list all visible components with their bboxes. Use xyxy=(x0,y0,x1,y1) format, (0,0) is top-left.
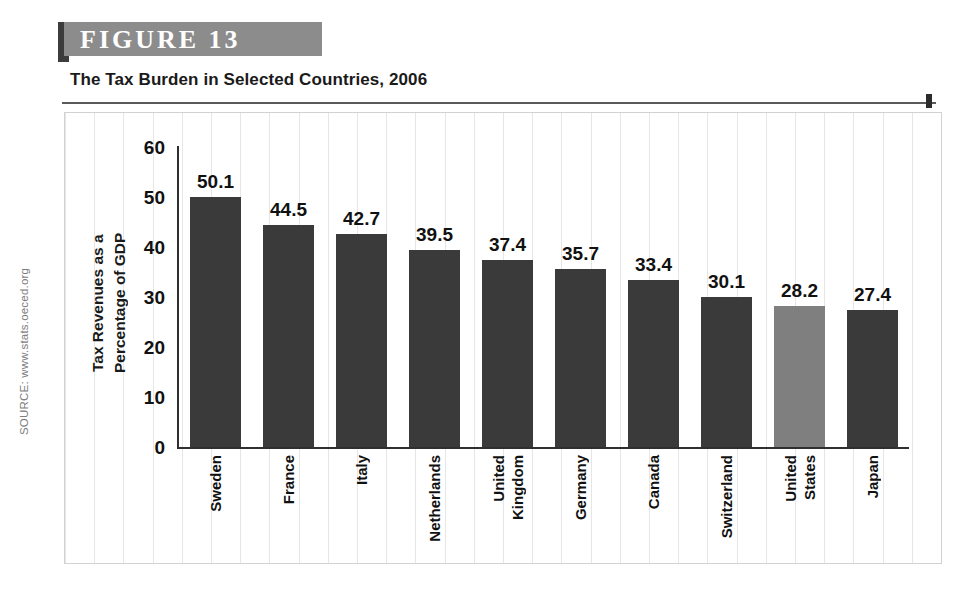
bar-slot: 28.2 xyxy=(763,147,836,447)
bar-sweden[interactable] xyxy=(190,197,241,448)
chart-panel: Tax Revenues as a Percentage of GDP 6050… xyxy=(64,112,942,564)
bar-slot: 33.4 xyxy=(617,147,690,447)
x-axis-label-line: Italy xyxy=(352,455,371,485)
bar-value-label: 35.7 xyxy=(544,244,617,263)
bar-slot: 42.7 xyxy=(325,147,398,447)
x-axis-label-line: Switzerland xyxy=(717,455,736,538)
y-tick-label: 40 xyxy=(144,238,165,257)
x-axis-label-line: Netherlands xyxy=(425,455,444,542)
bar-slot: 44.5 xyxy=(252,147,325,447)
figure-banner-row: FIGURE 13 xyxy=(58,22,936,56)
x-axis-label-line: Japan xyxy=(863,455,882,498)
x-axis-label-line: Sweden xyxy=(206,455,225,512)
x-label-slot: Netherlands xyxy=(398,455,471,561)
bar-value-label: 42.7 xyxy=(325,209,398,228)
bar-slot: 35.7 xyxy=(544,147,617,447)
y-tick-label: 30 xyxy=(144,288,165,307)
bar-united-states[interactable] xyxy=(774,306,825,447)
x-axis-label-line: Kingdom xyxy=(508,455,527,520)
x-axis-label-line: States xyxy=(800,455,819,500)
x-axis-label-japan: Japan xyxy=(836,455,909,561)
bar-netherlands[interactable] xyxy=(409,250,460,448)
x-axis-label-france: France xyxy=(252,455,325,561)
x-axis-line xyxy=(177,447,909,449)
figure-subtitle: The Tax Burden in Selected Countries, 20… xyxy=(70,70,427,90)
x-label-slot: UnitedKingdom xyxy=(471,455,544,561)
y-axis-title-line-1: Tax Revenues as a xyxy=(87,153,109,453)
subtitle-divider-end-tab xyxy=(926,94,932,108)
bar-value-label: 39.5 xyxy=(398,225,471,244)
bar-value-label: 33.4 xyxy=(617,255,690,274)
x-label-slot: Japan xyxy=(836,455,909,561)
x-axis-label-united-states: UnitedStates xyxy=(763,455,836,561)
x-axis-label-netherlands: Netherlands xyxy=(398,455,471,561)
bar-slot: 27.4 xyxy=(836,147,909,447)
x-axis-label-switzerland: Switzerland xyxy=(690,455,763,561)
bar-value-label: 50.1 xyxy=(179,172,252,191)
x-label-slot: Canada xyxy=(617,455,690,561)
figure-header: FIGURE 13 The Tax Burden in Selected Cou… xyxy=(58,22,936,56)
y-tick-label: 10 xyxy=(144,388,165,407)
bar-switzerland[interactable] xyxy=(701,297,752,448)
x-label-slot: Sweden xyxy=(179,455,252,561)
x-axis-label-line: United xyxy=(489,455,508,502)
x-label-slot: UnitedStates xyxy=(763,455,836,561)
x-axis-label-canada: Canada xyxy=(617,455,690,561)
bar-slot: 37.4 xyxy=(471,147,544,447)
y-axis-title: Tax Revenues as a Percentage of GDP xyxy=(87,153,133,453)
bar-value-label: 44.5 xyxy=(252,200,325,219)
y-axis-ticks: 6050403020100 xyxy=(131,113,171,565)
source-note: SOURCE: www.stats.oeced.org xyxy=(18,225,30,435)
x-axis-labels: SwedenFranceItalyNetherlandsUnitedKingdo… xyxy=(179,455,909,561)
y-tick-label: 0 xyxy=(154,438,165,457)
x-axis-label-line: United xyxy=(781,455,800,502)
figure-number-label: FIGURE 13 xyxy=(80,25,241,55)
bar-value-label: 28.2 xyxy=(763,281,836,300)
y-tick-label: 50 xyxy=(144,188,165,207)
bar-slot: 30.1 xyxy=(690,147,763,447)
bar-value-label: 37.4 xyxy=(471,235,544,254)
y-tick-label: 60 xyxy=(144,138,165,157)
bar-value-label: 27.4 xyxy=(836,285,909,304)
x-axis-label-line: Canada xyxy=(644,455,663,509)
plot-area: 50.144.542.739.537.435.733.430.128.227.4 xyxy=(179,147,909,447)
bar-united-kingdom[interactable] xyxy=(482,260,533,447)
x-axis-label-germany: Germany xyxy=(544,455,617,561)
bar-france[interactable] xyxy=(263,225,314,448)
x-axis-label-united-kingdom: UnitedKingdom xyxy=(471,455,544,561)
bar-slot: 39.5 xyxy=(398,147,471,447)
x-axis-label-line: Germany xyxy=(571,455,590,520)
y-tick-label: 20 xyxy=(144,338,165,357)
bar-slot: 50.1 xyxy=(179,147,252,447)
bar-italy[interactable] xyxy=(336,234,387,448)
bar-canada[interactable] xyxy=(628,280,679,447)
bar-germany[interactable] xyxy=(555,269,606,448)
x-axis-label-italy: Italy xyxy=(325,455,398,561)
x-axis-label-sweden: Sweden xyxy=(179,455,252,561)
x-label-slot: Germany xyxy=(544,455,617,561)
subtitle-divider xyxy=(62,102,936,104)
x-label-slot: France xyxy=(252,455,325,561)
x-label-slot: Italy xyxy=(325,455,398,561)
x-label-slot: Switzerland xyxy=(690,455,763,561)
y-axis-title-line-2: Percentage of GDP xyxy=(109,153,131,453)
bar-japan[interactable] xyxy=(847,310,898,447)
bar-value-label: 30.1 xyxy=(690,272,763,291)
x-axis-label-line: France xyxy=(279,455,298,504)
